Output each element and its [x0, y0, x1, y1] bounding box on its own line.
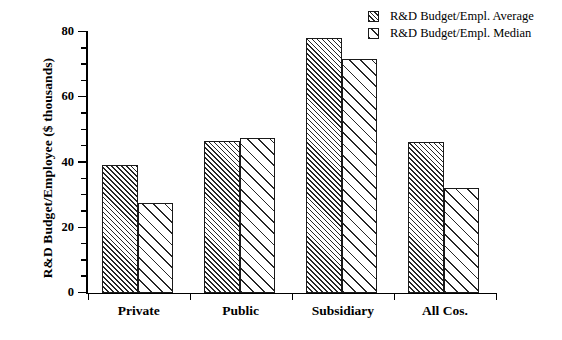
- y-tick-55: [81, 112, 87, 113]
- bar-public-median: [240, 138, 276, 293]
- y-tick-35: [81, 178, 87, 179]
- x-tick-1: [190, 293, 191, 300]
- y-tick-30: [81, 194, 87, 195]
- bar-private-average: [102, 165, 138, 292]
- y-tick-70: [81, 63, 87, 64]
- y-tick-0: [78, 292, 87, 293]
- legend-item-average: R&D Budget/Empl. Average: [368, 9, 534, 24]
- y-tick-label-0: 0: [50, 286, 74, 299]
- y-axis-title: R&D Budget/Employee ($ thousands): [40, 23, 56, 313]
- bar-subsidiary-average: [306, 38, 342, 292]
- x-tick-2: [292, 293, 293, 300]
- bar-all-cos-median: [444, 188, 480, 292]
- bar-public-average: [204, 141, 240, 293]
- y-tick-60: [78, 96, 87, 97]
- y-tick-50: [81, 129, 87, 130]
- bar-all-cos-average: [408, 142, 444, 292]
- y-tick-10: [81, 259, 87, 260]
- category-label-public: Public: [190, 303, 292, 319]
- legend-label-median: R&D Budget/Empl. Median: [390, 27, 531, 40]
- legend-label-average: R&D Budget/Empl. Average: [390, 10, 534, 23]
- category-label-all-cos: All Cos.: [394, 303, 496, 319]
- y-tick-75: [81, 47, 87, 48]
- y-tick-label-60: 60: [50, 90, 74, 103]
- y-tick-15: [81, 243, 87, 244]
- category-label-private: Private: [88, 303, 190, 319]
- sparse-hatch-swatch-icon: [368, 28, 379, 39]
- legend-item-median: R&D Budget/Empl. Median: [368, 26, 534, 41]
- x-tick-4: [496, 293, 497, 300]
- y-tick-25: [81, 210, 87, 211]
- x-tick-3: [394, 293, 395, 300]
- y-tick-5: [81, 275, 87, 276]
- y-tick-40: [78, 161, 87, 162]
- y-tick-label-40: 40: [50, 156, 74, 169]
- category-label-subsidiary: Subsidiary: [292, 303, 394, 319]
- bar-chart: R&D Budget/Employee ($ thousands) 020406…: [0, 0, 562, 340]
- dense-hatch-swatch-icon: [368, 11, 379, 22]
- y-tick-label-20: 20: [50, 221, 74, 234]
- bar-subsidiary-median: [342, 59, 378, 292]
- legend: R&D Budget/Empl. Average R&D Budget/Empl…: [368, 9, 534, 43]
- y-tick-20: [78, 227, 87, 228]
- x-tick-0: [88, 293, 89, 300]
- y-tick-65: [81, 80, 87, 81]
- y-tick-45: [81, 145, 87, 146]
- y-tick-label-80: 80: [50, 25, 74, 38]
- bar-private-median: [138, 203, 174, 293]
- y-tick-80: [78, 31, 87, 32]
